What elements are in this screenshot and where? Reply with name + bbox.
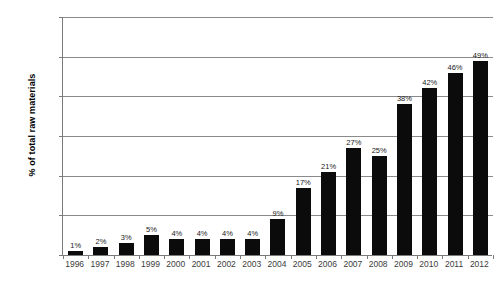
bar-value-label: 27% bbox=[341, 138, 366, 147]
bar bbox=[93, 247, 108, 255]
bar-value-label: 38% bbox=[392, 94, 417, 103]
x-axis-tick-label: 2003 bbox=[239, 259, 264, 269]
bar-slot: 1% bbox=[63, 17, 88, 255]
bar bbox=[144, 235, 159, 255]
bar bbox=[296, 188, 311, 255]
x-axis-tick-label: 1996 bbox=[62, 259, 87, 269]
bar-value-label: 2% bbox=[88, 237, 113, 246]
bar-value-label: 49% bbox=[468, 51, 493, 60]
bar-slot: 3% bbox=[114, 17, 139, 255]
bar-slot: 42% bbox=[417, 17, 442, 255]
bar-slot: 4% bbox=[240, 17, 265, 255]
bar bbox=[220, 239, 235, 255]
bar bbox=[245, 239, 260, 255]
bar bbox=[68, 251, 83, 255]
plot-area: 0%10%20%30%40%50%60% 1%2%3%5%4%4%4%4%9%1… bbox=[62, 17, 492, 256]
bar-value-label: 4% bbox=[189, 229, 214, 238]
bar-slot: 4% bbox=[164, 17, 189, 255]
bar-value-label: 46% bbox=[442, 63, 467, 72]
x-axis-tick-label: 2007 bbox=[340, 259, 365, 269]
bar bbox=[473, 61, 488, 255]
x-axis-tick-label: 2009 bbox=[391, 259, 416, 269]
bar-value-label: 25% bbox=[367, 146, 392, 155]
bar-value-label: 4% bbox=[215, 229, 240, 238]
bar-slot: 9% bbox=[265, 17, 290, 255]
x-axis-tick-label: 2008 bbox=[366, 259, 391, 269]
bar-value-label: 4% bbox=[240, 229, 265, 238]
x-axis-tick-mark bbox=[493, 255, 494, 259]
bar bbox=[448, 73, 463, 255]
x-axis-tick-label: 2006 bbox=[315, 259, 340, 269]
x-axis-tick-label: 1997 bbox=[87, 259, 112, 269]
bar bbox=[422, 88, 437, 255]
bar-slot: 4% bbox=[189, 17, 214, 255]
bar-value-label: 1% bbox=[63, 241, 88, 250]
bar bbox=[169, 239, 184, 255]
x-axis-tick-label: 2004 bbox=[264, 259, 289, 269]
bar bbox=[372, 156, 387, 255]
bar-slot: 4% bbox=[215, 17, 240, 255]
x-axis-tick-label: 2010 bbox=[416, 259, 441, 269]
x-axis-tick-label: 1999 bbox=[138, 259, 163, 269]
bar-slot: 38% bbox=[392, 17, 417, 255]
bar-slot: 25% bbox=[367, 17, 392, 255]
bar-value-label: 5% bbox=[139, 225, 164, 234]
bar-value-label: 3% bbox=[114, 233, 139, 242]
bar bbox=[321, 172, 336, 255]
bar-slot: 2% bbox=[88, 17, 113, 255]
x-axis-tick-label: 1998 bbox=[113, 259, 138, 269]
x-axis-tick-label: 2012 bbox=[467, 259, 492, 269]
bar-slot: 46% bbox=[442, 17, 467, 255]
bar bbox=[119, 243, 134, 255]
bar-slot: 49% bbox=[468, 17, 493, 255]
x-axis-tick-label: 2005 bbox=[290, 259, 315, 269]
y-axis-title: % of total raw materials bbox=[27, 35, 37, 215]
bar-slot: 5% bbox=[139, 17, 164, 255]
bar-slot: 17% bbox=[291, 17, 316, 255]
bar-slot: 21% bbox=[316, 17, 341, 255]
bar bbox=[195, 239, 210, 255]
bar bbox=[346, 148, 361, 255]
bar-slot: 27% bbox=[341, 17, 366, 255]
x-axis-tick-label: 2000 bbox=[163, 259, 188, 269]
x-axis-tick-labels: 1996199719981999200020012002200320042005… bbox=[62, 259, 492, 273]
x-axis-tick-label: 2011 bbox=[441, 259, 466, 269]
bar-value-label: 17% bbox=[291, 178, 316, 187]
bar-chart: % of total raw materials 0%10%20%30%40%5… bbox=[0, 0, 504, 292]
x-axis-tick-label: 2002 bbox=[214, 259, 239, 269]
bar-value-label: 42% bbox=[417, 78, 442, 87]
x-axis-tick-label: 2001 bbox=[188, 259, 213, 269]
bar-value-label: 21% bbox=[316, 162, 341, 171]
bar-series: 1%2%3%5%4%4%4%4%9%17%21%27%25%38%42%46%4… bbox=[63, 17, 493, 255]
bar-value-label: 9% bbox=[265, 209, 290, 218]
bar bbox=[397, 104, 412, 255]
bar bbox=[270, 219, 285, 255]
bar-value-label: 4% bbox=[164, 229, 189, 238]
